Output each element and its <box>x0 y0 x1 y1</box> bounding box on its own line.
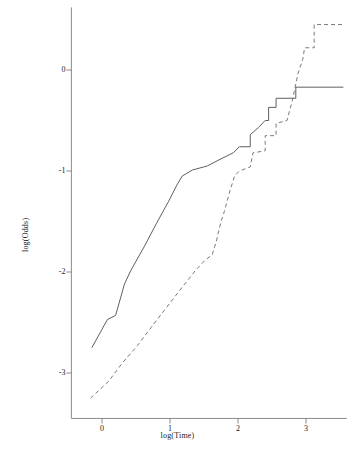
y-tick-label-0: 0 <box>39 65 65 74</box>
y-tick-label--3: -3 <box>39 368 65 377</box>
series-dashed-curve <box>90 25 343 399</box>
series-solid-curve <box>92 87 344 348</box>
y-axis-label: log(Odds) <box>21 218 30 252</box>
x-axis-label: log(Time) <box>0 431 355 440</box>
chart-root: 01230-1-2-3 log(Time) log(Odds) <box>0 0 355 461</box>
y-tick-label--1: -1 <box>39 166 65 175</box>
axis-group <box>71 7 346 418</box>
y-axis-label-wrapper: log(Odds) <box>14 218 32 252</box>
data-series-group <box>90 25 343 399</box>
tick-marks-group <box>66 70 306 423</box>
y-tick-label--2: -2 <box>39 267 65 276</box>
